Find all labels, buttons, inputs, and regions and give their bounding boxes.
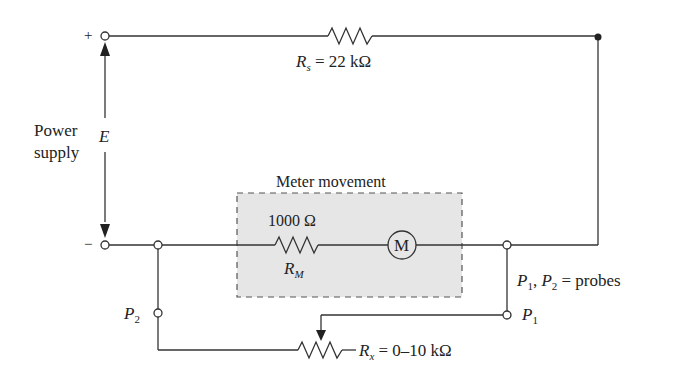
rx-label: Rx = 0–10 kΩ bbox=[359, 342, 452, 362]
p2-symbol: P bbox=[124, 304, 134, 323]
rx-symbol: R bbox=[359, 341, 369, 360]
arrow-down-icon bbox=[100, 224, 110, 238]
rm-label: RM bbox=[284, 260, 304, 280]
rs-value: = 22 kΩ bbox=[315, 52, 371, 71]
rs-symbol: R bbox=[296, 52, 306, 71]
rm-subscript: M bbox=[294, 268, 303, 280]
meter-glyph: M bbox=[394, 237, 409, 254]
probe-p1-terminal bbox=[503, 311, 511, 319]
junction-dot bbox=[595, 34, 602, 41]
probes-legend: P1, P2 = probes bbox=[517, 272, 621, 292]
legend-text: = probes bbox=[557, 271, 620, 290]
power-label-line2: supply bbox=[34, 144, 79, 161]
node-right bbox=[503, 241, 511, 249]
minus-terminal bbox=[101, 241, 109, 249]
plus-terminal bbox=[101, 32, 109, 40]
minus-sign: − bbox=[84, 237, 92, 252]
plus-sign: + bbox=[84, 28, 92, 43]
p1-symbol: P bbox=[522, 305, 532, 324]
p1-sub: 1 bbox=[532, 314, 538, 326]
rs-subscript: s bbox=[306, 61, 310, 73]
rs-resistor-symbol bbox=[328, 28, 372, 44]
circuit-diagram: + − Power supply E Rs = 22 kΩ Meter move… bbox=[0, 0, 690, 383]
probe-p2-label: P2 bbox=[124, 305, 140, 325]
arrow-up-icon bbox=[100, 42, 110, 56]
rm-value: 1000 Ω bbox=[268, 213, 316, 229]
node-left bbox=[154, 241, 162, 249]
power-label-line1: Power bbox=[34, 122, 77, 139]
wiper-arrow-icon bbox=[316, 330, 326, 341]
rs-label: Rs = 22 kΩ bbox=[296, 53, 371, 73]
legend-p1: P bbox=[517, 271, 527, 290]
meter-movement-label: Meter movement bbox=[276, 174, 386, 190]
rx-potentiometer-symbol bbox=[298, 342, 342, 358]
rx-value: = 0–10 kΩ bbox=[379, 341, 452, 360]
p2-sub: 2 bbox=[134, 313, 140, 325]
voltage-label: E bbox=[99, 128, 109, 145]
rx-subscript: x bbox=[369, 350, 374, 362]
legend-p2: P bbox=[541, 271, 551, 290]
probe-p2-terminal bbox=[154, 309, 162, 317]
rm-symbol: R bbox=[284, 259, 294, 278]
probe-p1-label: P1 bbox=[522, 306, 538, 326]
